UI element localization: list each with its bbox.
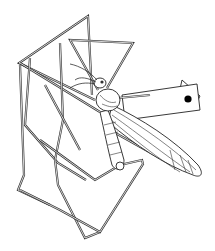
antennae — [70, 64, 97, 88]
specimen-label — [122, 80, 200, 120]
crane-fly-drawing — [0, 0, 215, 251]
thorax — [96, 89, 120, 111]
pin-hole-dot — [184, 95, 191, 102]
head — [94, 78, 106, 88]
specimen-illustration — [0, 0, 215, 251]
